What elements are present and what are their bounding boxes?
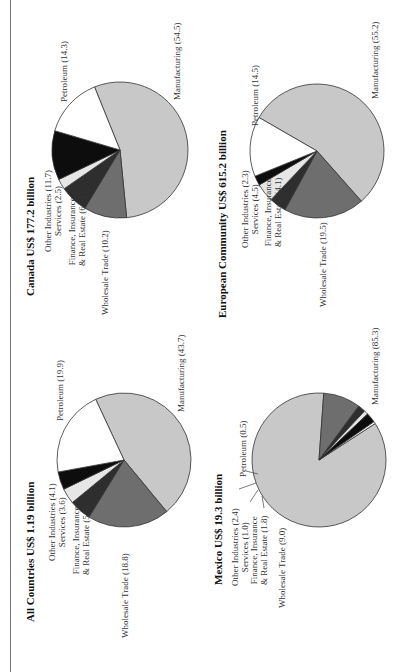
label-finance: Finance, Insurance& Real Estate (5.0) xyxy=(71,506,91,575)
label-manufacturing: Manufacturing (85.3) xyxy=(370,328,380,405)
label-other: Other Industries (11.7)Services (2.5) xyxy=(43,170,63,252)
label-finance: Finance, Insurance& Real Estate (6.7) xyxy=(67,197,87,266)
label-wholesale: Wholesale Trade (9.0) xyxy=(277,528,287,608)
label-manufacturing: Manufacturing (54.5) xyxy=(172,23,182,100)
label-wholesale: Wholesale Trade (18.8) xyxy=(120,553,130,638)
label-wholesale: Wholesale Trade (19.5) xyxy=(318,222,328,307)
label-other: Other Industries (2.4)Services (1.0) xyxy=(230,508,250,586)
label-petroleum: Petroleum (19.9) xyxy=(55,360,65,421)
chart-title-canada: Canada US$ 177.2 billion xyxy=(24,177,36,296)
label-petroleum: Petroleum (14.3) xyxy=(59,41,69,102)
label-finance: Finance, Insurance& Real Estate (4.1) xyxy=(263,178,283,247)
pie-mexico xyxy=(252,393,386,527)
label-other: Other Industries (4.1)Services (3.6) xyxy=(47,483,67,561)
label-other: Other Industries (2.3)Services (4.5) xyxy=(240,170,260,248)
label-manufacturing: Manufacturing (43.7) xyxy=(176,335,186,412)
chart-title-european-community: European Community US$ 615.2 billion xyxy=(216,130,228,318)
label-manufacturing: Manufacturing (55.2) xyxy=(370,22,380,99)
chart-title-mexico: Mexico US$ 19.3 billion xyxy=(212,474,224,585)
label-finance: Finance, Insurance& Real Estate (1.8) xyxy=(249,516,269,585)
chart-title-all-countries: All Countries US$ 1.19 billion xyxy=(24,482,36,622)
label-wholesale: Wholesale Trade (10.2) xyxy=(100,230,110,315)
label-petroleum: Petroleum (14.5) xyxy=(250,65,260,126)
label-petroleum: Petroleum (0.5) xyxy=(238,421,248,478)
